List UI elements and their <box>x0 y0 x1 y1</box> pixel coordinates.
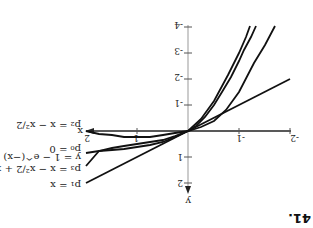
taylor-polynomial-plot: -2 -1 1 2 -4 -3 -2 -1 1 2 y x p₀ = 0 y =… <box>0 0 313 228</box>
x-tick-2: 2 <box>84 133 90 143</box>
y-tick-2: 2 <box>177 178 183 188</box>
x-tick-neg2: -2 <box>290 133 299 143</box>
y-tick-neg3: -3 <box>174 46 183 56</box>
curve-p3 <box>86 26 250 166</box>
x-tick-neg1: -1 <box>236 133 245 143</box>
y-tick-neg1: -1 <box>174 98 183 108</box>
label-p1: p₁ = x <box>50 180 81 191</box>
x-tick-1: 1 <box>133 133 139 143</box>
label-p3: p₃ = x − x²/2 + x³/6 <box>0 164 81 175</box>
figure-rotated: -2 -1 1 2 -4 -3 -2 -1 1 2 y x p₀ = 0 y =… <box>0 0 313 228</box>
label-f: y = 1 − e^(−x) <box>3 152 82 163</box>
y-tick-1: 1 <box>177 152 183 162</box>
y-tick-neg4: -4 <box>174 20 183 30</box>
y-axis-arrow-icon <box>185 186 191 194</box>
y-tick-neg2: -2 <box>174 72 183 82</box>
figure-number: 41. <box>288 211 311 226</box>
label-p2: p₂ = x − x²/2 <box>16 120 81 131</box>
y-axis-label: y <box>185 196 192 207</box>
